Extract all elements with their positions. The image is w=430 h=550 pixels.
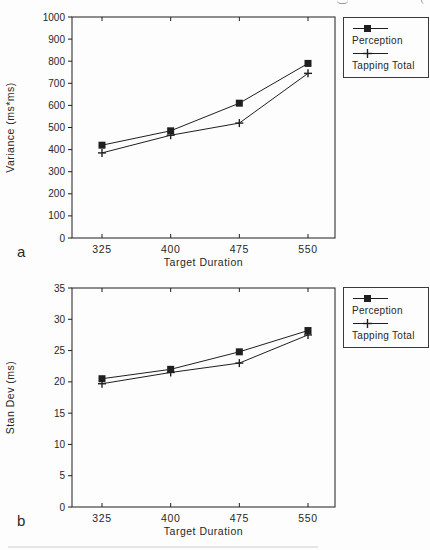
- svg-text:100: 100: [48, 210, 65, 221]
- legend-entry-perception: Perception: [352, 293, 426, 316]
- svg-text:325: 325: [92, 512, 111, 524]
- svg-text:550: 550: [298, 243, 317, 255]
- legend-entry-tapping-total: Tapping Total: [352, 48, 426, 71]
- svg-text:700: 700: [48, 78, 65, 89]
- svg-text:200: 200: [48, 188, 65, 199]
- svg-text:475: 475: [230, 512, 249, 524]
- square-marker-icon: [352, 23, 426, 34]
- svg-text:30: 30: [54, 314, 66, 325]
- panel-label-a: a: [17, 243, 25, 260]
- svg-text:900: 900: [48, 34, 65, 45]
- legend-panel-b: Perception Tapping Total: [343, 287, 429, 348]
- svg-text:400: 400: [161, 512, 180, 524]
- svg-text:10: 10: [54, 439, 66, 450]
- svg-text:Target Duration: Target Duration: [164, 525, 243, 537]
- legend-label: Tapping Total: [352, 60, 426, 71]
- svg-text:300: 300: [48, 166, 65, 177]
- svg-text:15: 15: [54, 408, 66, 419]
- svg-text:400: 400: [48, 144, 65, 155]
- legend-label: Perception: [352, 35, 426, 46]
- svg-text:1000: 1000: [43, 12, 66, 23]
- svg-text:475: 475: [230, 243, 249, 255]
- svg-text:0: 0: [59, 233, 65, 244]
- svg-text:0: 0: [59, 502, 65, 513]
- svg-text:400: 400: [161, 243, 180, 255]
- legend-label: Tapping Total: [352, 330, 426, 341]
- svg-text:5: 5: [59, 470, 65, 481]
- svg-text:Stan Dev (ms): Stan Dev (ms): [4, 361, 16, 435]
- svg-text:20: 20: [54, 376, 66, 387]
- panel-label-b: b: [17, 512, 25, 529]
- svg-text:800: 800: [48, 56, 65, 67]
- svg-text:Target Duration: Target Duration: [164, 256, 243, 268]
- plus-marker-icon: [352, 318, 426, 329]
- svg-text:500: 500: [48, 122, 65, 133]
- legend-entry-perception: Perception: [352, 23, 426, 46]
- svg-text:550: 550: [298, 512, 317, 524]
- plus-marker-icon: [352, 48, 426, 59]
- figure-page: 0100200300400500600700800900100032540047…: [0, 0, 430, 550]
- legend-entry-tapping-total: Tapping Total: [352, 318, 426, 341]
- svg-text:325: 325: [92, 243, 111, 255]
- square-marker-icon: [352, 293, 426, 304]
- svg-text:Variance (ms*ms): Variance (ms*ms): [4, 82, 16, 173]
- svg-text:25: 25: [54, 345, 66, 356]
- legend-panel-a: Perception Tapping Total: [343, 17, 429, 78]
- svg-text:600: 600: [48, 100, 65, 111]
- legend-label: Perception: [352, 305, 426, 316]
- svg-text:35: 35: [54, 283, 66, 294]
